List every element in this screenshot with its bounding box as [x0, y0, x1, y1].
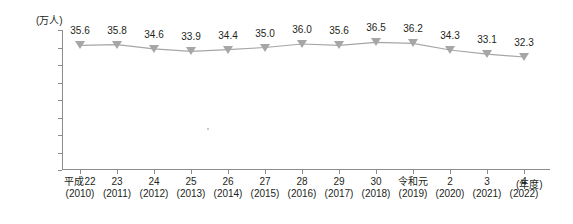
- data-point-label: 35.6: [322, 26, 356, 36]
- data-point-marker: [371, 38, 381, 46]
- data-point-marker: [223, 46, 233, 54]
- data-point-marker: [334, 41, 344, 49]
- x-tick-mark: [339, 170, 340, 174]
- x-tick-mark: [302, 170, 303, 174]
- data-point-marker: [297, 40, 307, 48]
- data-point-label: 32.3: [507, 38, 541, 48]
- x-tick-mark: [450, 170, 451, 174]
- data-point-label: 36.5: [359, 23, 393, 33]
- x-tick-mark: [265, 170, 266, 174]
- data-point-label: 33.1: [470, 35, 504, 45]
- x-tick-mark: [154, 170, 155, 174]
- x-tick-mark: [376, 170, 377, 174]
- data-point-marker: [149, 45, 159, 53]
- x-tick-mark: [524, 170, 525, 174]
- x-tick-mark: [413, 170, 414, 174]
- data-point-marker: [445, 46, 455, 54]
- x-tick-mark: [191, 170, 192, 174]
- data-point-marker: [519, 53, 529, 61]
- data-point-marker: [75, 41, 85, 49]
- data-point-label: 36.0: [285, 25, 319, 35]
- data-point-marker: [186, 47, 196, 55]
- data-point-label: 33.9: [174, 32, 208, 42]
- data-point-label: 35.8: [100, 26, 134, 36]
- data-point-label: 34.6: [137, 30, 171, 40]
- x-tick-mark: [80, 170, 81, 174]
- data-point-marker: [408, 39, 418, 47]
- data-point-marker: [260, 44, 270, 52]
- x-tick-mark: [487, 170, 488, 174]
- data-point-label: 36.2: [396, 24, 430, 34]
- data-point-label: 35.6: [63, 26, 97, 36]
- data-point-marker: [482, 50, 492, 58]
- line-chart: (万人) 0510152025303540 35.635.834.633.934…: [0, 0, 573, 224]
- data-point-label: 35.0: [248, 29, 282, 39]
- data-point-label: 34.4: [211, 31, 245, 41]
- x-tick-mark: [117, 170, 118, 174]
- data-point-marker: [112, 41, 122, 49]
- data-point-label: 34.3: [433, 31, 467, 41]
- x-axis-caption: (年度): [516, 176, 543, 191]
- x-tick-mark: [228, 170, 229, 174]
